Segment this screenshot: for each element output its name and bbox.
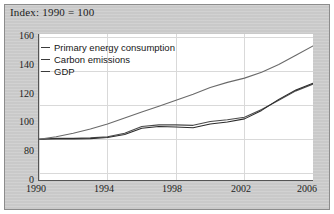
x-tick-2002: 2002: [231, 183, 251, 194]
x-tick-1998: 1998: [162, 183, 182, 194]
x-tick-1994: 1994: [94, 183, 114, 194]
y-axis: 160 140 120 100 80 0: [0, 0, 34, 214]
legend-line-icon: [41, 59, 50, 60]
legend-label: Carbon emissions: [54, 54, 130, 65]
x-axis: 1990 1994 1998 2002 2006: [0, 183, 334, 199]
legend-label: GDP: [54, 66, 75, 77]
legend-item-gdp: GDP: [41, 66, 175, 77]
legend-label: Primary energy consumption: [54, 42, 175, 53]
x-tick-2006: 2006: [297, 183, 317, 194]
legend-line-icon: [41, 71, 50, 72]
y-tick-160: 160: [4, 31, 34, 41]
y-tick-100: 100: [4, 117, 34, 127]
chart-figure: Index: 1990 = 100 160 140 120 100 80 0 1…: [0, 0, 334, 214]
legend-item-carbon-emissions: Carbon emissions: [41, 54, 175, 65]
x-tick-1990: 1990: [26, 183, 46, 194]
y-tick-120: 120: [4, 89, 34, 99]
y-tick-80: 80: [4, 146, 34, 156]
y-tick-140: 140: [4, 60, 34, 70]
legend-line-icon: [41, 47, 50, 48]
chart-legend: Primary energy consumption Carbon emissi…: [41, 42, 175, 77]
legend-item-primary-energy-consumption: Primary energy consumption: [41, 42, 175, 53]
